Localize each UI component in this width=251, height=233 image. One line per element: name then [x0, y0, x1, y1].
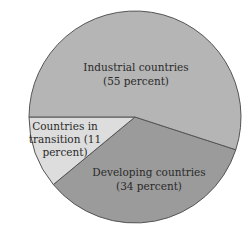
transition-label-line1: Countries in [32, 120, 98, 132]
pie-chart: Industrial countries (55 percent) Develo… [0, 0, 251, 233]
industrial-label-line1: Industrial countries [83, 61, 188, 73]
industrial-label-line2: (55 percent) [103, 75, 169, 87]
transition-label-line3: percent) [42, 146, 87, 158]
developing-label-line2: (34 percent) [116, 180, 182, 192]
developing-label-line1: Developing countries [92, 166, 205, 178]
transition-label-line2: transition (11 [29, 133, 101, 145]
